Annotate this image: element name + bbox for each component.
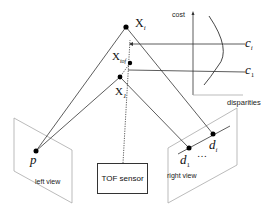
point-xtof <box>128 61 132 65</box>
point-xi <box>123 24 128 29</box>
left-view-plane <box>14 118 72 203</box>
disparities-axis-label: disparities <box>227 98 261 107</box>
point-x1 <box>118 75 123 80</box>
label-x1: X1 <box>115 85 126 100</box>
label-p: p <box>30 152 37 168</box>
ray-p-x1 <box>36 77 120 151</box>
label-xi: Xi <box>135 16 146 32</box>
tof-sensor-label: TOF sensor <box>101 174 143 183</box>
label-xtof: Xtof <box>112 50 126 64</box>
label-ellipsis: … <box>197 148 207 159</box>
ray-x1-d1 <box>120 77 189 148</box>
label-c1: c1 <box>245 62 254 79</box>
cost-axis-label: cost <box>172 11 185 18</box>
label-di: di <box>209 137 217 154</box>
point-d1 <box>187 146 192 151</box>
cost-curve <box>204 16 223 85</box>
point-di <box>211 132 216 137</box>
ray-p-xi <box>36 27 126 151</box>
left-view-label: left view <box>35 178 60 185</box>
ray-xi-di <box>126 27 213 134</box>
label-ci: ci <box>245 35 253 52</box>
cost-axis-arrow <box>192 11 195 15</box>
cost-line-c1 <box>128 70 245 72</box>
tof-sensor-box: TOF sensor <box>97 163 148 194</box>
right-view-label: right view <box>167 172 197 179</box>
label-d1: d1 <box>180 152 190 169</box>
